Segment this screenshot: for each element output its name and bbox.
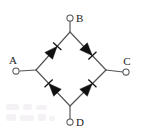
terminal-b-label: B	[76, 12, 83, 24]
terminal-a-ring	[13, 68, 19, 74]
lead-c	[106, 70, 123, 72]
bridge-arms-group	[36, 32, 106, 106]
terminal-d-ring	[67, 119, 73, 125]
circuit-diagram-canvas: A B C D	[0, 0, 141, 138]
terminal-d-label: D	[76, 116, 84, 128]
diode-bridge-figure: A B C D	[0, 0, 141, 138]
terminal-c-label: C	[123, 55, 130, 67]
terminal-b-ring	[67, 15, 73, 21]
terminal-c-ring	[123, 69, 129, 75]
lead-a	[20, 70, 36, 71]
scan-artifact-group	[6, 104, 55, 121]
terminal-a-label: A	[9, 54, 17, 66]
